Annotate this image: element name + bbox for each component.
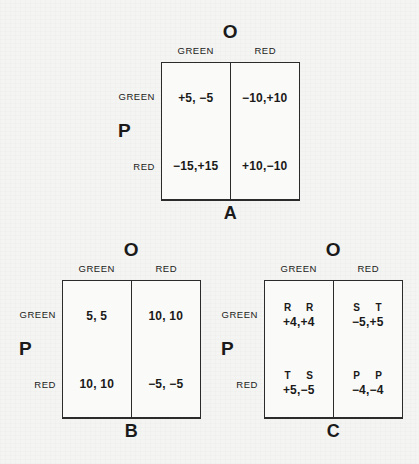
cell-payoff-green-red-a: −10,+10 xyxy=(242,91,287,105)
row-headers-c: GREEN RED xyxy=(208,280,264,419)
cell-strategy-col-red-red-c: P xyxy=(368,370,390,382)
payoff-grid-b: 5, 5 10, 10 10, 10 −5, −5 xyxy=(62,280,201,419)
cell-strategy-col-green-red-c: T xyxy=(368,302,390,314)
cell-payoff-red-green-b: 10, 10 xyxy=(79,377,114,391)
cell-payoff-green-green-a: +5, −5 xyxy=(178,91,213,105)
cell-red-green-a[interactable]: −15,+15 xyxy=(162,132,231,201)
cell-strategy-row-green-red-c: S xyxy=(346,302,368,314)
column-player-label-a: O xyxy=(161,22,300,41)
column-headers-b: GREEN RED xyxy=(62,263,201,274)
figure-label-b: B xyxy=(62,422,201,440)
page-edge-header xyxy=(0,0,419,14)
column-header-red-c: RED xyxy=(334,263,404,274)
cell-payoff-green-green-c: +4,+4 xyxy=(283,315,315,329)
cell-payoff-green-green-b: 5, 5 xyxy=(86,309,107,323)
cell-payoff-red-green-a: −15,+15 xyxy=(173,159,218,173)
payoff-grid-a: +5, −5 −10,+10 −15,+15 +10,−10 xyxy=(161,62,300,201)
cell-red-green-b[interactable]: 10, 10 xyxy=(63,350,132,419)
cell-strategy-col-green-green-c: R xyxy=(299,302,321,314)
cell-red-red-b[interactable]: −5, −5 xyxy=(132,350,201,419)
cell-red-green-c[interactable]: T S +5,−5 xyxy=(265,350,334,419)
column-player-label-b: O xyxy=(62,240,201,259)
row-headers-b: GREEN RED xyxy=(6,280,62,419)
row-header-red-a: RED xyxy=(101,132,161,202)
figure-label-a: A xyxy=(161,204,300,222)
cell-payoff-red-red-b: −5, −5 xyxy=(148,377,183,391)
cell-strategy-row-red-green-c: T xyxy=(277,370,299,382)
column-headers-a: GREEN RED xyxy=(161,45,300,56)
cell-green-red-b[interactable]: 10, 10 xyxy=(132,281,201,350)
cell-strategy-row-red-red-c: P xyxy=(346,370,368,382)
cell-payoff-red-red-c: −4,−4 xyxy=(352,383,384,397)
cell-strategy-red-green-c: T S xyxy=(277,370,321,382)
row-headers-a: GREEN RED xyxy=(101,62,161,201)
column-header-red-a: RED xyxy=(231,45,301,56)
cell-green-red-c[interactable]: S T −5,+5 xyxy=(334,281,403,350)
row-header-green-c: GREEN xyxy=(208,280,264,350)
cell-green-green-c[interactable]: R R +4,+4 xyxy=(265,281,334,350)
cell-strategy-col-red-green-c: S xyxy=(299,370,321,382)
column-header-green-c: GREEN xyxy=(264,263,334,274)
payoff-grid-c: R R +4,+4 S T −5,+5 T S +5,−5 P P −4,−4 xyxy=(264,280,403,419)
cell-red-red-c[interactable]: P P −4,−4 xyxy=(334,350,403,419)
figure-label-c: C xyxy=(264,422,403,440)
column-headers-c: GREEN RED xyxy=(264,263,403,274)
cell-payoff-green-red-b: 10, 10 xyxy=(148,309,183,323)
column-player-label-c: O xyxy=(264,240,403,259)
column-header-green-b: GREEN xyxy=(62,263,132,274)
cell-payoff-green-red-c: −5,+5 xyxy=(352,315,384,329)
cell-strategy-green-red-c: S T xyxy=(346,302,390,314)
column-header-red-b: RED xyxy=(132,263,202,274)
cell-strategy-green-green-c: R R xyxy=(277,302,321,314)
cell-payoff-red-green-c: +5,−5 xyxy=(283,383,315,397)
cell-red-red-a[interactable]: +10,−10 xyxy=(231,132,300,201)
cell-green-green-a[interactable]: +5, −5 xyxy=(162,63,231,132)
cell-strategy-red-red-c: P P xyxy=(346,370,390,382)
cell-green-red-a[interactable]: −10,+10 xyxy=(231,63,300,132)
row-header-red-b: RED xyxy=(6,350,62,420)
row-header-green-b: GREEN xyxy=(6,280,62,350)
row-header-red-c: RED xyxy=(208,350,264,420)
row-header-green-a: GREEN xyxy=(101,62,161,132)
cell-green-green-b[interactable]: 5, 5 xyxy=(63,281,132,350)
cell-strategy-row-green-green-c: R xyxy=(277,302,299,314)
cell-payoff-red-red-a: +10,−10 xyxy=(242,159,287,173)
column-header-green-a: GREEN xyxy=(161,45,231,56)
